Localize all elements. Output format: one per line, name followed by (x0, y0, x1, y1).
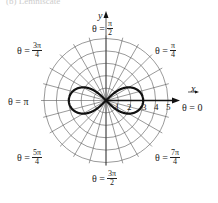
angle-label-7pi-over-4: θ = 7π4 (155, 149, 180, 166)
fraction: π2 (107, 20, 113, 37)
tick-1: 1 (115, 102, 120, 112)
grid-spoke (74, 44, 107, 100)
denominator: 4 (171, 51, 175, 59)
lhs: θ = (155, 152, 168, 163)
angle-label-pi: θ = π (8, 96, 28, 107)
lhs: θ = (17, 45, 30, 56)
lhs: θ = (155, 45, 168, 56)
fraction: 3π4 (32, 42, 42, 59)
tick-5: 5 (166, 102, 171, 112)
lhs: θ = (92, 173, 105, 184)
lhs: θ = (17, 152, 30, 163)
grid-spoke (106, 68, 162, 101)
angle-label-3pi-over-4: θ = 3π4 (17, 42, 42, 59)
fraction: 7π4 (170, 149, 180, 166)
x-label-arrow-icon (195, 91, 199, 94)
angle-label-5pi-over-4: θ = 5π4 (17, 149, 42, 166)
tick-4: 4 (154, 102, 159, 112)
lhs: θ = (92, 23, 105, 34)
denominator: 4 (173, 158, 177, 166)
tick-3: 3 (142, 102, 147, 112)
x-axis-arrow-icon (172, 98, 180, 104)
angle-label-0: θ = 0 (182, 102, 202, 113)
grid-spoke (50, 101, 106, 134)
fraction: 5π4 (32, 149, 42, 166)
denominator: 2 (108, 29, 112, 37)
angle-label-pi-text: θ = π (8, 96, 28, 107)
x-axis-label: x (191, 83, 195, 94)
denominator: 4 (35, 158, 39, 166)
grid-spoke (106, 44, 139, 100)
grid-spoke (50, 68, 106, 101)
y-axis-arrow-icon (104, 11, 109, 18)
grid-spoke (74, 101, 107, 157)
angle-label-pi-over-4: θ = π4 (155, 42, 176, 59)
angle-label-0-text: θ = 0 (182, 102, 202, 113)
tick-2: 2 (127, 102, 132, 112)
denominator: 4 (35, 51, 39, 59)
fraction: π4 (170, 42, 176, 59)
grid-spoke (106, 101, 139, 157)
denominator: 2 (110, 179, 114, 187)
angle-label-pi-over-2: θ = π2 (92, 20, 113, 37)
fraction: 3π2 (107, 170, 117, 187)
angle-label-3pi-over-2: θ = 3π2 (92, 170, 117, 187)
